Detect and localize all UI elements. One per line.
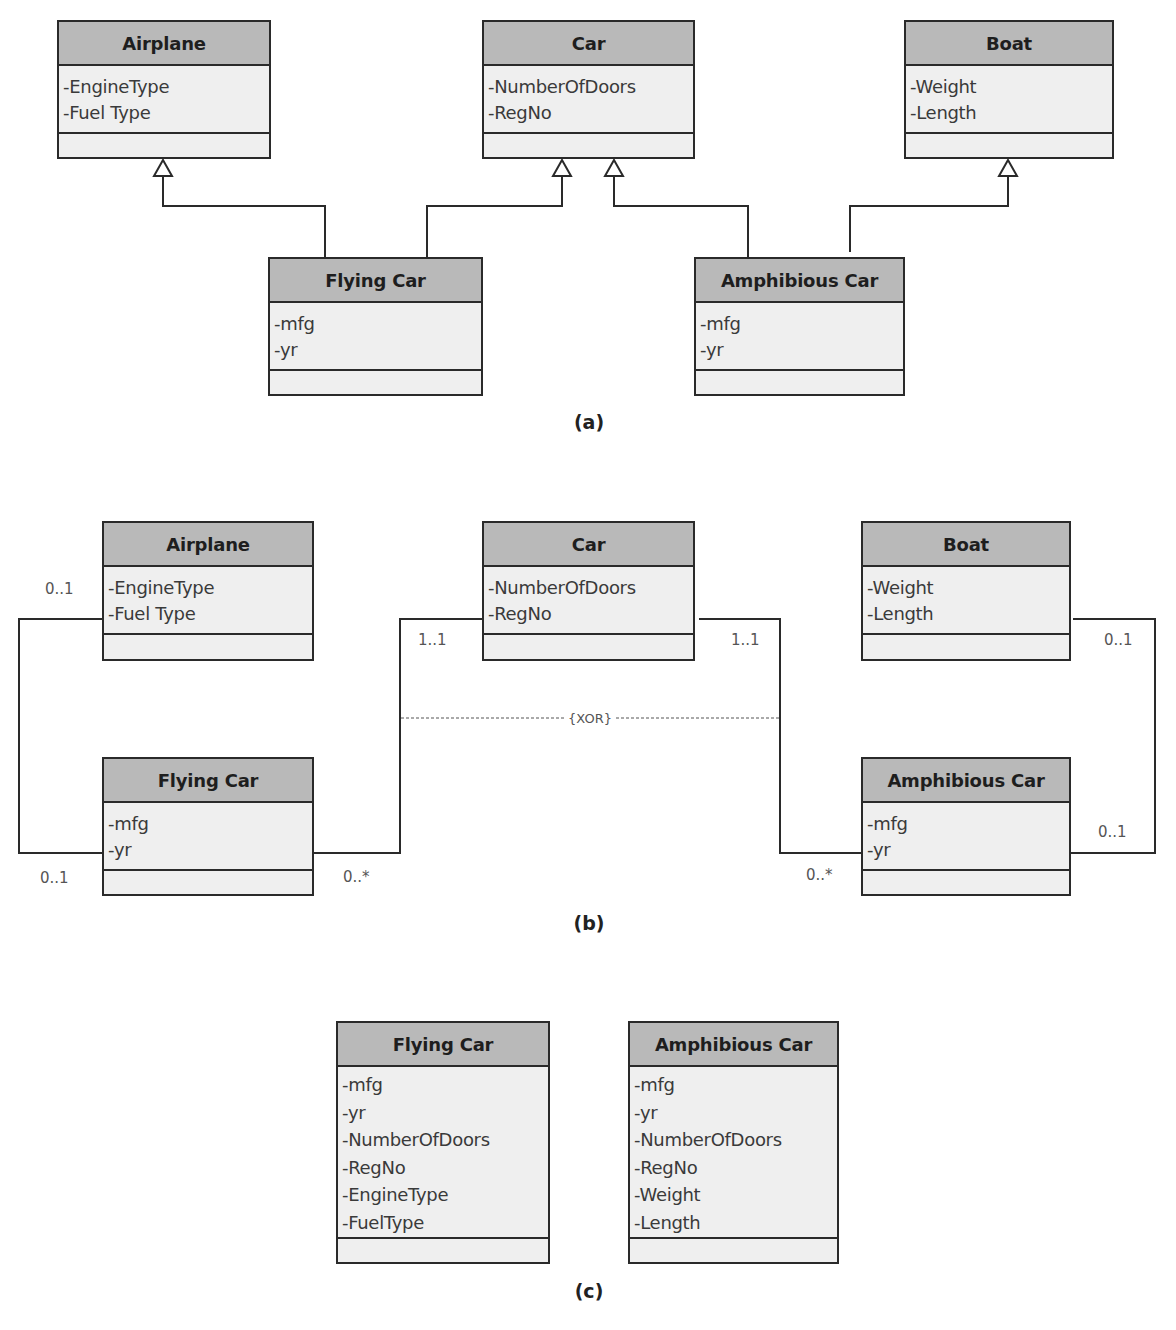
class-name: Car xyxy=(484,22,693,66)
generalization-amphibious-car-boat xyxy=(850,176,1008,252)
class-name: Flying Car xyxy=(104,759,312,803)
triangle-arrow-icon xyxy=(605,160,623,176)
attribute: -Length xyxy=(910,100,1112,126)
attribute: -EngineType xyxy=(63,74,269,100)
class-name: Airplane xyxy=(59,22,269,66)
attribute: -yr xyxy=(867,837,1069,863)
attribute-compartment: -mfg -yr xyxy=(863,803,1069,871)
class-box-flying-car: Flying Car -mfg -yr xyxy=(268,257,483,396)
attribute-compartment: -Weight -Length xyxy=(863,567,1069,635)
attribute: -Fuel Type xyxy=(63,100,269,126)
multiplicity-label: 0..1 xyxy=(40,869,69,887)
multiplicity-label: 0..* xyxy=(343,868,370,886)
class-box-boat: Boat -Weight -Length xyxy=(904,20,1114,159)
attribute: -mfg xyxy=(274,311,481,337)
class-name: Amphibious Car xyxy=(863,759,1069,803)
multiplicity-label: 0..1 xyxy=(1098,823,1127,841)
attribute-compartment: -NumberOfDoors -RegNo xyxy=(484,66,693,134)
attribute-compartment: -NumberOfDoors -RegNo xyxy=(484,567,693,635)
class-name: Airplane xyxy=(104,523,312,567)
attribute-compartment: -mfg -yr xyxy=(270,303,481,371)
attribute: -mfg xyxy=(867,811,1069,837)
attribute: -Weight xyxy=(910,74,1112,100)
attribute: -RegNo xyxy=(488,100,693,126)
class-name: Flying Car xyxy=(270,259,481,303)
attribute: -mfg xyxy=(634,1071,837,1099)
attribute: -FuelType xyxy=(342,1209,548,1237)
generalization-flying-car-airplane xyxy=(163,176,325,257)
class-name: Boat xyxy=(863,523,1069,567)
attribute: -Weight xyxy=(867,575,1069,601)
connector-layer xyxy=(0,0,1176,1330)
class-box-boat: Boat -Weight -Length xyxy=(861,521,1071,661)
multiplicity-label: 0..1 xyxy=(1104,631,1133,649)
attribute: -NumberOfDoors xyxy=(488,74,693,100)
class-box-flying-car: Flying Car -mfg -yr xyxy=(102,757,314,896)
class-box-airplane: Airplane -EngineType -Fuel Type xyxy=(57,20,271,159)
attribute: -mfg xyxy=(700,311,903,337)
class-box-amphibious-car: Amphibious Car -mfg -yr xyxy=(694,257,905,396)
operation-compartment xyxy=(59,134,269,157)
panel-caption-b: (b) xyxy=(574,912,605,934)
panel-caption-c: (c) xyxy=(575,1280,604,1302)
multiplicity-label: 0..* xyxy=(806,866,833,884)
attribute-compartment: -mfg -yr -NumberOfDoors -RegNo -EngineTy… xyxy=(338,1067,548,1239)
association-car-flying-car xyxy=(313,619,482,853)
triangle-arrow-icon xyxy=(999,160,1017,176)
attribute-compartment: -Weight -Length xyxy=(906,66,1112,134)
multiplicity-label: 1..1 xyxy=(731,631,760,649)
operation-compartment xyxy=(863,635,1069,659)
attribute: -Fuel Type xyxy=(108,601,312,627)
attribute: -RegNo xyxy=(634,1154,837,1182)
attribute: -yr xyxy=(342,1099,548,1127)
class-name: Amphibious Car xyxy=(696,259,903,303)
attribute: -NumberOfDoors xyxy=(488,575,693,601)
operation-compartment xyxy=(696,371,903,394)
operation-compartment xyxy=(104,871,312,894)
class-box-car: Car -NumberOfDoors -RegNo xyxy=(482,521,695,661)
operation-compartment xyxy=(863,871,1069,894)
class-box-amphibious-car-flattened: Amphibious Car -mfg -yr -NumberOfDoors -… xyxy=(628,1021,839,1264)
attribute-compartment: -mfg -yr xyxy=(696,303,903,371)
attribute: -Length xyxy=(634,1209,837,1237)
association-car-amphibious-car xyxy=(699,619,861,853)
panel-caption-a: (a) xyxy=(574,411,604,433)
multiplicity-label: 0..1 xyxy=(45,580,74,598)
xor-constraint-label: {XOR} xyxy=(565,711,615,726)
attribute: -EngineType xyxy=(342,1181,548,1209)
operation-compartment xyxy=(270,371,481,394)
attribute: -yr xyxy=(700,337,903,363)
attribute-compartment: -mfg -yr -NumberOfDoors -RegNo -Weight -… xyxy=(630,1067,837,1239)
attribute: -yr xyxy=(108,837,312,863)
attribute: -NumberOfDoors xyxy=(634,1126,837,1154)
triangle-arrow-icon xyxy=(154,160,172,176)
class-name: Amphibious Car xyxy=(630,1023,837,1067)
attribute: -yr xyxy=(634,1099,837,1127)
triangle-arrow-icon xyxy=(553,160,571,176)
attribute-compartment: -EngineType -Fuel Type xyxy=(104,567,312,635)
generalization-flying-car-car xyxy=(427,176,562,257)
operation-compartment xyxy=(906,134,1112,157)
operation-compartment xyxy=(484,134,693,157)
attribute: -mfg xyxy=(342,1071,548,1099)
attribute: -yr xyxy=(274,337,481,363)
class-box-airplane: Airplane -EngineType -Fuel Type xyxy=(102,521,314,661)
class-name: Boat xyxy=(906,22,1112,66)
class-box-flying-car-flattened: Flying Car -mfg -yr -NumberOfDoors -RegN… xyxy=(336,1021,550,1264)
class-box-car: Car -NumberOfDoors -RegNo xyxy=(482,20,695,159)
class-box-amphibious-car: Amphibious Car -mfg -yr xyxy=(861,757,1071,896)
association-boat-amphibious-car xyxy=(1070,619,1155,853)
class-name: Car xyxy=(484,523,693,567)
generalization-amphibious-car-car xyxy=(614,176,748,257)
attribute: -RegNo xyxy=(342,1154,548,1182)
attribute: -mfg xyxy=(108,811,312,837)
operation-compartment xyxy=(630,1239,837,1262)
multiplicity-label: 1..1 xyxy=(418,631,447,649)
class-name: Flying Car xyxy=(338,1023,548,1067)
operation-compartment xyxy=(484,635,693,659)
attribute-compartment: -EngineType -Fuel Type xyxy=(59,66,269,134)
operation-compartment xyxy=(104,635,312,659)
attribute: -NumberOfDoors xyxy=(342,1126,548,1154)
attribute: -RegNo xyxy=(488,601,693,627)
attribute: -Length xyxy=(867,601,1069,627)
